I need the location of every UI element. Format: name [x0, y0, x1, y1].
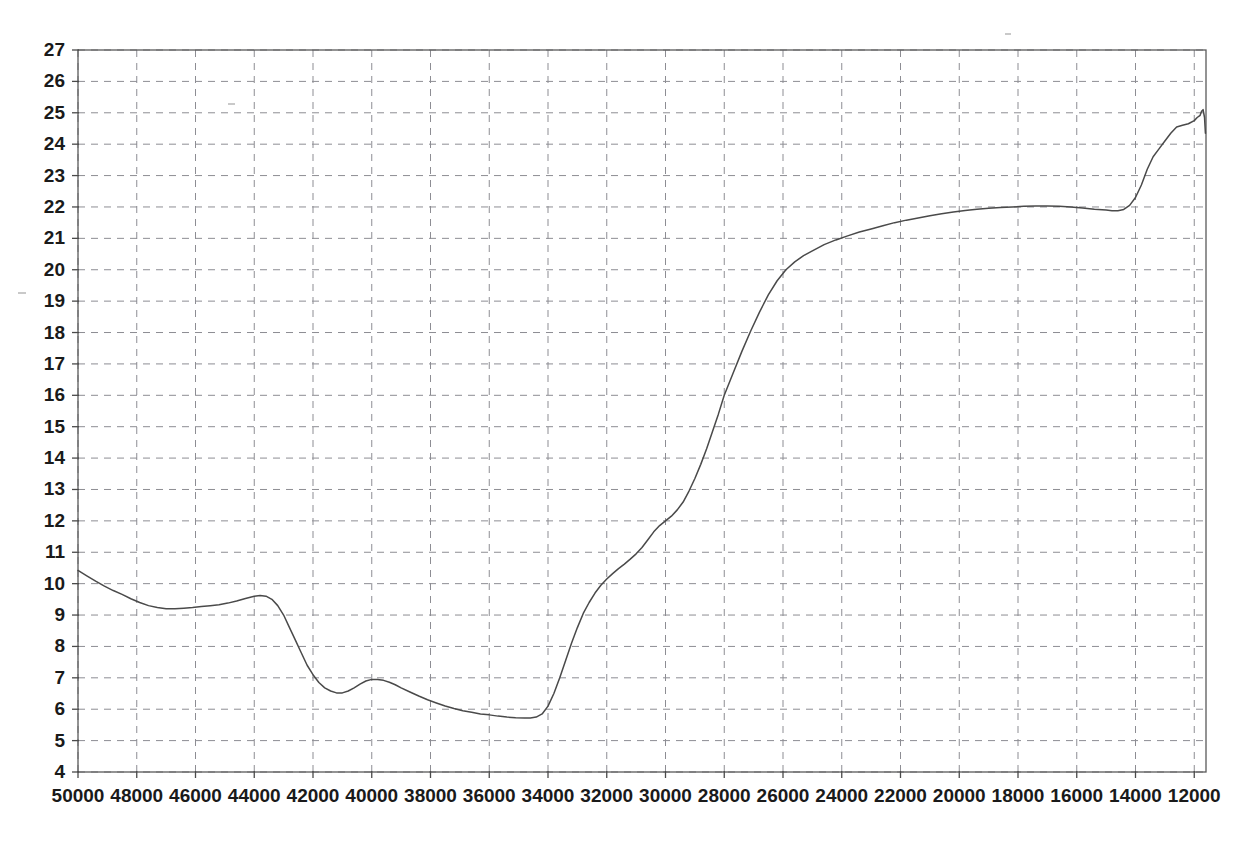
- x-axis-tick-label: 34000: [522, 785, 575, 806]
- scan-speck: [18, 292, 26, 294]
- y-axis-tick-label: 12: [44, 510, 65, 531]
- y-axis-tick-label: 8: [54, 635, 65, 656]
- x-axis-tick-label: 28000: [698, 785, 751, 806]
- y-axis-tick-label: 5: [54, 730, 65, 751]
- chart-container: 4567891011121314151617181920212223242526…: [0, 0, 1258, 844]
- y-axis-tick-label: 25: [44, 102, 66, 123]
- scan-speck: [1005, 33, 1011, 35]
- x-axis-tick-label: 22000: [874, 785, 927, 806]
- y-axis-tick-label: 24: [44, 133, 66, 154]
- x-axis-tick-label: 42000: [287, 785, 340, 806]
- y-axis-tick-label: 16: [44, 384, 65, 405]
- x-axis-tick-label: 48000: [110, 785, 163, 806]
- x-axis-tick-label: 46000: [169, 785, 222, 806]
- y-axis-tick-label: 4: [54, 761, 65, 782]
- x-axis-tick-label: 20000: [933, 785, 986, 806]
- x-axis-tick-label: 18000: [992, 785, 1045, 806]
- y-axis-tick-label: 10: [44, 573, 65, 594]
- y-axis-tick-label: 18: [44, 322, 65, 343]
- y-axis-tick-label: 23: [44, 165, 65, 186]
- x-axis-tick-label: 12000: [1168, 785, 1221, 806]
- y-axis-tick-label: 19: [44, 290, 65, 311]
- x-axis-tick-label: 30000: [639, 785, 692, 806]
- y-axis-tick-label: 21: [44, 227, 66, 248]
- y-axis-tick-label: 14: [44, 447, 66, 468]
- y-axis-tick-label: 22: [44, 196, 65, 217]
- y-axis-tick-label: 9: [54, 604, 65, 625]
- scan-speck: [228, 103, 235, 105]
- x-axis-tick-label: 36000: [463, 785, 516, 806]
- y-axis-tick-label: 20: [44, 259, 65, 280]
- x-axis-tick-label: 24000: [815, 785, 868, 806]
- x-axis-tick-label: 40000: [345, 785, 398, 806]
- x-axis-tick-label: 16000: [1050, 785, 1103, 806]
- y-axis-tick-label: 17: [44, 353, 65, 374]
- y-axis-tick-label: 27: [44, 39, 65, 60]
- x-axis-tick-label: 32000: [580, 785, 633, 806]
- y-axis-tick-label: 15: [44, 416, 66, 437]
- x-axis-tick-label: 26000: [757, 785, 810, 806]
- x-axis-tick-label: 50000: [52, 785, 105, 806]
- x-axis-tick-label: 44000: [228, 785, 281, 806]
- y-axis-tick-label: 7: [54, 667, 65, 688]
- y-axis-tick-label: 13: [44, 478, 65, 499]
- line-chart: 4567891011121314151617181920212223242526…: [0, 0, 1258, 844]
- y-axis-tick-label: 11: [45, 541, 66, 562]
- y-axis-tick-label: 6: [54, 698, 65, 719]
- plot-area-background: [78, 50, 1206, 772]
- x-axis-tick-label: 38000: [404, 785, 457, 806]
- x-axis-tick-label: 14000: [1109, 785, 1162, 806]
- y-axis-tick-label: 26: [44, 70, 65, 91]
